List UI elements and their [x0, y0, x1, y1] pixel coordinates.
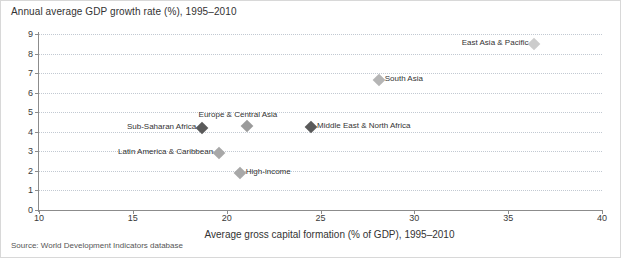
chart-figure: Annual average GDP growth rate (%), 1995… — [0, 0, 621, 258]
data-point-label: Middle East & North Africa — [317, 120, 410, 129]
y-tick-label-6: 6 — [9, 88, 33, 98]
y-tick-label-9: 9 — [9, 29, 33, 39]
y-tick-mark-1 — [35, 190, 39, 191]
data-point-label: Latin America & Caribbean — [118, 147, 213, 156]
plot-area: Sub-Saharan AfricaEurope & Central AsiaL… — [39, 34, 602, 210]
gridline-y-5 — [39, 112, 602, 113]
source-note: Source: World Development Indicators dat… — [11, 241, 183, 250]
x-tick-label-15: 15 — [113, 213, 153, 223]
data-point-marker[interactable] — [213, 147, 226, 160]
y-tick-mark-9 — [35, 34, 39, 35]
y-tick-label-4: 4 — [9, 127, 33, 137]
x-tick-mark-25 — [321, 210, 322, 214]
x-tick-label-30: 30 — [394, 213, 434, 223]
gridline-y-6 — [39, 93, 602, 94]
gridline-y-1 — [39, 190, 602, 191]
y-tick-mark-6 — [35, 93, 39, 94]
gridline-y-2 — [39, 171, 602, 172]
x-tick-label-20: 20 — [207, 213, 247, 223]
data-point-marker[interactable] — [233, 166, 246, 179]
gridline-y-8 — [39, 54, 602, 55]
data-point-label: South Asia — [385, 73, 423, 82]
x-tick-mark-30 — [414, 210, 415, 214]
x-tick-mark-35 — [508, 210, 509, 214]
gridline-y-9 — [39, 34, 602, 35]
x-tick-label-40: 40 — [582, 213, 621, 223]
gridline-y-7 — [39, 73, 602, 74]
x-axis-title: Average gross capital formation (% of GD… — [1, 229, 620, 240]
x-tick-label-35: 35 — [488, 213, 528, 223]
y-tick-label-2: 2 — [9, 166, 33, 176]
y-tick-label-7: 7 — [9, 68, 33, 78]
y-tick-label-5: 5 — [9, 107, 33, 117]
y-tick-mark-5 — [35, 112, 39, 113]
x-tick-mark-20 — [227, 210, 228, 214]
x-tick-mark-15 — [133, 210, 134, 214]
y-tick-mark-4 — [35, 132, 39, 133]
y-tick-label-3: 3 — [9, 146, 33, 156]
x-tick-label-10: 10 — [19, 213, 59, 223]
y-tick-label-8: 8 — [9, 49, 33, 59]
data-point-label: Europe & Central Asia — [199, 109, 278, 118]
data-point-marker[interactable] — [528, 37, 541, 50]
chart-title: Annual average GDP growth rate (%), 1995… — [11, 6, 237, 17]
x-tick-mark-10 — [39, 210, 40, 214]
data-point-marker[interactable] — [372, 74, 385, 87]
gridline-y-4 — [39, 132, 602, 133]
data-point-label: High-income — [246, 166, 291, 175]
x-tick-mark-40 — [602, 210, 603, 214]
y-tick-mark-2 — [35, 171, 39, 172]
x-tick-label-25: 25 — [301, 213, 341, 223]
y-tick-mark-7 — [35, 73, 39, 74]
y-tick-label-1: 1 — [9, 185, 33, 195]
data-point-marker[interactable] — [241, 120, 254, 133]
y-tick-mark-3 — [35, 151, 39, 152]
y-tick-mark-8 — [35, 54, 39, 55]
data-point-label: Sub-Saharan Africa — [127, 121, 196, 130]
data-point-label: East Asia & Pacific — [462, 37, 529, 46]
